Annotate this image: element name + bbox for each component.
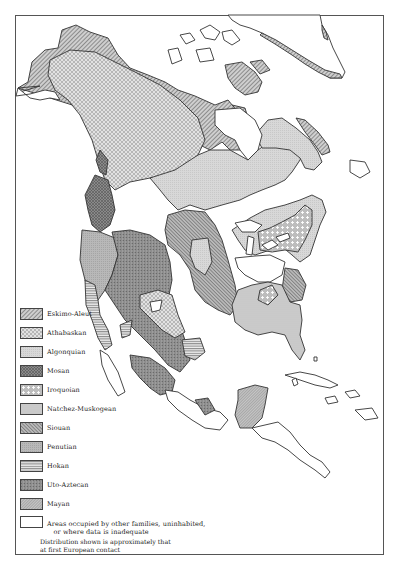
legend-label: Algonquian — [47, 348, 86, 356]
legend-item-athabaskan: Athabaskan — [20, 326, 87, 340]
legend-item-siouan: Siouan — [20, 421, 70, 435]
legend-item-mosan: Mosan — [20, 364, 69, 378]
swatch-mayan — [20, 498, 43, 510]
swatch-mosan — [20, 365, 43, 377]
swatch-penutian — [20, 441, 43, 453]
swatch-hokan — [20, 460, 43, 472]
swatch-iroquoian — [20, 384, 43, 396]
legend-label: Eskimo-Aleut — [47, 310, 92, 318]
legend-label: Uto-Aztecan — [47, 481, 89, 489]
legend-item-mayan: Mayan — [20, 497, 70, 511]
legend-item-eskimo-aleut: Eskimo-Aleut — [20, 307, 92, 321]
swatch-eskimo-aleut — [20, 308, 43, 320]
region-central-america — [252, 422, 330, 478]
swatch-siouan — [20, 422, 43, 434]
legend-label: Athabaskan — [47, 329, 87, 337]
legend-item-penutian: Penutian — [20, 440, 77, 454]
legend-label: Hokan — [47, 462, 69, 470]
legend-label: Mayan — [47, 500, 70, 508]
legend-item-algonquian: Algonquian — [20, 345, 86, 359]
legend-label: Natchez-Muskogean — [47, 405, 116, 413]
legend-label: Areas occupied by other families, uninha… — [47, 521, 205, 536]
legend-item-other: Areas occupied by other families, uninha… — [20, 516, 205, 538]
distribution-note: Distribution shown is approximately that… — [40, 538, 171, 554]
swatch-natchez-muskogean — [20, 403, 43, 415]
swatch-uto-aztecan — [20, 479, 43, 491]
region-mayan — [235, 385, 268, 428]
swatch-athabaskan — [20, 327, 43, 339]
legend-item-natchez-muskogean: Natchez-Muskogean — [20, 402, 116, 416]
legend-label: Penutian — [47, 443, 77, 451]
swatch-algonquian — [20, 346, 43, 358]
legend-label: Iroquoian — [47, 386, 80, 394]
legend-item-iroquoian: Iroquoian — [20, 383, 80, 397]
legend-item-hokan: Hokan — [20, 459, 69, 473]
swatch-other — [20, 516, 43, 528]
legend-label: Mosan — [47, 367, 69, 375]
region-mexico-outline — [165, 390, 228, 430]
legend-item-uto-aztecan: Uto-Aztecan — [20, 478, 89, 492]
legend-label: Siouan — [47, 424, 70, 432]
